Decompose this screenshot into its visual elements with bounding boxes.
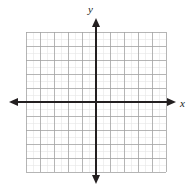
y-axis-label: y: [88, 4, 93, 15]
x-axis-label: x: [180, 98, 185, 109]
coordinate-plane-figure: y x: [0, 0, 192, 186]
coordinate-plane-graphic: [0, 0, 192, 186]
